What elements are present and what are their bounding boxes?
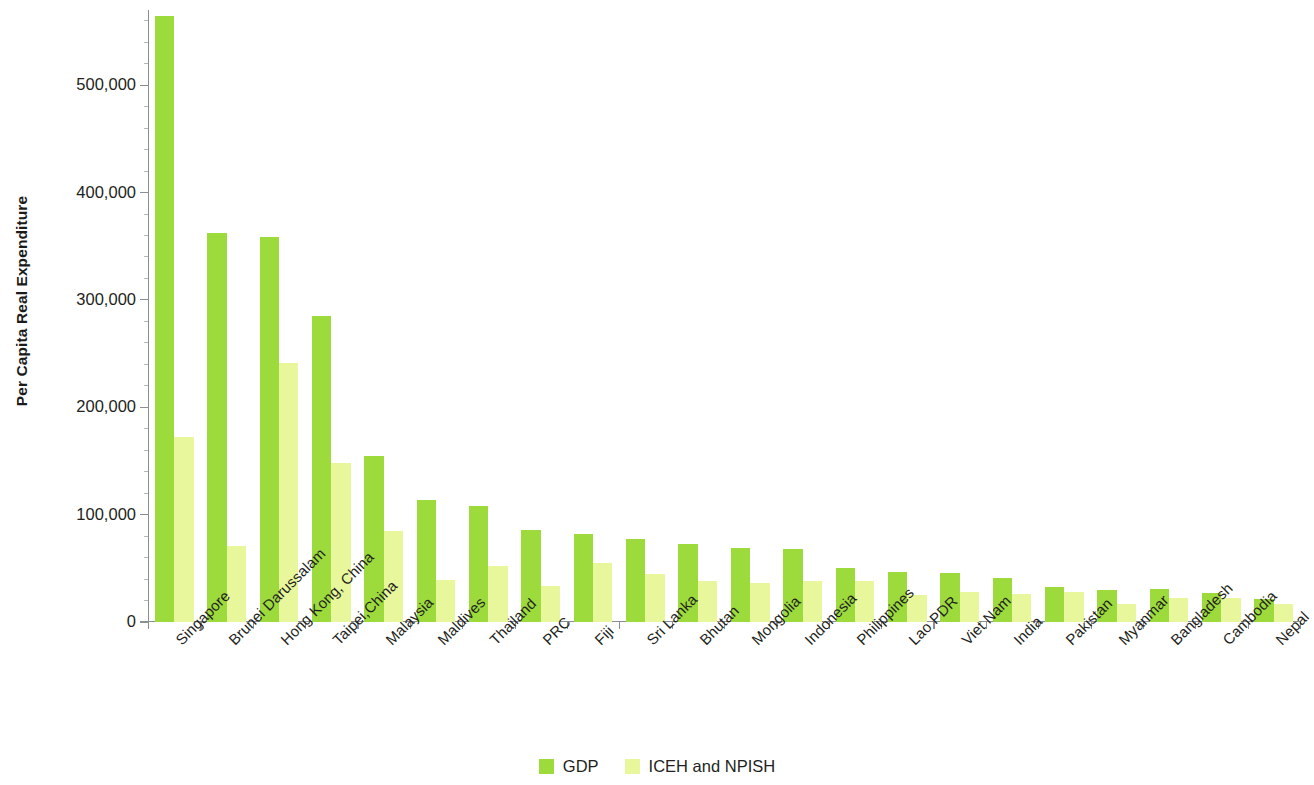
y-tick-label: 400,000 <box>20 184 136 201</box>
y-tick-mark <box>140 514 148 515</box>
bar-iceh-and-npish <box>174 437 193 622</box>
y-tick-minor <box>144 256 148 257</box>
y-tick-minor <box>144 600 148 601</box>
y-tick-minor <box>144 214 148 215</box>
x-tick-mark <box>619 622 620 629</box>
y-tick-label: 500,000 <box>20 76 136 93</box>
y-tick-minor <box>144 385 148 386</box>
bar-iceh-and-npish <box>645 574 664 622</box>
y-tick-minor <box>144 106 148 107</box>
y-tick-minor <box>144 235 148 236</box>
legend-swatch-gdp <box>539 759 554 774</box>
x-axis-label: Fiji <box>591 622 617 648</box>
legend-label-gdp: GDP <box>563 758 599 775</box>
bar-iceh-and-npish <box>803 581 822 622</box>
bar-gdp <box>312 316 331 622</box>
y-tick-label: 0 <box>20 613 136 630</box>
x-tick-mark <box>148 622 149 629</box>
y-tick-label: 100,000 <box>20 506 136 523</box>
y-tick-minor <box>144 342 148 343</box>
y-tick-minor <box>144 428 148 429</box>
legend-swatch-iceh-and-npish <box>625 759 640 774</box>
y-tick-minor <box>144 278 148 279</box>
bar-iceh-and-npish <box>593 563 612 622</box>
y-tick-minor <box>144 557 148 558</box>
y-tick-minor <box>144 471 148 472</box>
legend-item-iceh-and-npish[interactable]: ICEH and NPISH <box>625 758 776 775</box>
y-tick-mark <box>140 85 148 86</box>
plot-area: 0100,000200,000300,000400,000500,000 Sin… <box>148 10 1300 622</box>
bar-gdp <box>207 233 226 622</box>
y-tick-minor <box>144 493 148 494</box>
bar-iceh-and-npish <box>488 566 507 622</box>
y-tick-mark <box>140 621 148 622</box>
bar-iceh-and-npish <box>227 546 246 622</box>
y-tick-label: 300,000 <box>20 291 136 308</box>
chart-container: Per Capita Real Expenditure 0100,000200,… <box>0 0 1314 785</box>
y-tick-mark <box>140 299 148 300</box>
y-tick-minor <box>144 42 148 43</box>
chart-legend: GDP ICEH and NPISH <box>0 758 1314 775</box>
y-tick-minor <box>144 450 148 451</box>
y-tick-mark <box>140 407 148 408</box>
y-tick-minor <box>144 321 148 322</box>
y-tick-minor <box>144 20 148 21</box>
bar-iceh-and-npish <box>384 531 403 622</box>
y-tick-minor <box>144 171 148 172</box>
bar-gdp <box>155 16 174 622</box>
bar-gdp <box>1045 587 1064 622</box>
y-tick-minor <box>144 63 148 64</box>
y-tick-minor <box>144 364 148 365</box>
y-tick-label: 200,000 <box>20 398 136 415</box>
y-tick-minor <box>144 536 148 537</box>
y-tick-minor <box>144 579 148 580</box>
y-tick-minor <box>144 149 148 150</box>
bar-gdp <box>626 539 645 622</box>
legend-item-gdp[interactable]: GDP <box>539 758 599 775</box>
bar-gdp <box>260 237 279 622</box>
bar-gdp <box>574 534 593 622</box>
y-tick-mark <box>140 192 148 193</box>
legend-label-iceh-and-npish: ICEH and NPISH <box>649 758 776 775</box>
y-axis-line <box>148 10 149 622</box>
y-tick-minor <box>144 128 148 129</box>
